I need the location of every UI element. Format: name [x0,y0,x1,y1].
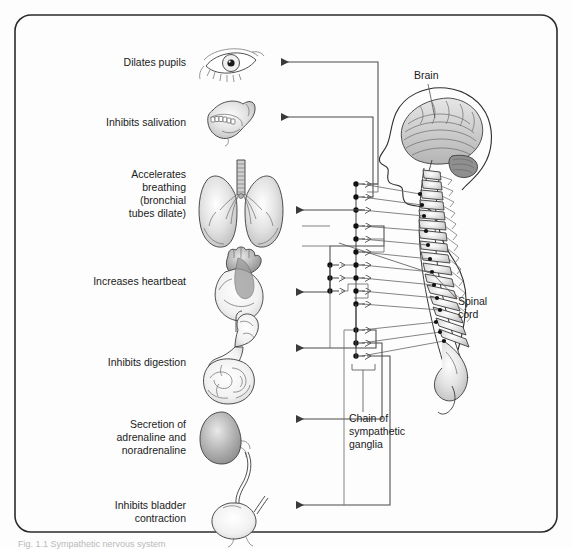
label-inhibits-bladder-line-1: contraction [135,512,187,524]
label-ganglia-line-2: ganglia [349,438,383,450]
label-inhibits-digestion-line-0: Inhibits digestion [108,356,186,368]
label-inhibits-bladder-line-0: Inhibits bladder [115,499,187,511]
label-secretion-adrenaline-line-2: noradrenaline [122,444,186,456]
label-dilates-pupils-line-0: Dilates pupils [124,56,186,68]
label-spinal-cord-line-1: cord [458,308,479,320]
figure-caption: Fig. 1.1 Sympathetic nervous system [18,539,166,549]
canvas-background [0,0,572,549]
label-inhibits-salivation: Inhibits salivation [106,116,186,128]
label-ganglia-line-1: sympathetic [349,425,405,437]
label-ganglia-line-0: Chain of [349,412,388,424]
label-accelerates-breathing-line-1: breathing [142,181,186,193]
label-brain-line-0: Brain [414,69,439,81]
label-accelerates-breathing-line-0: Accelerates [131,168,186,180]
figure-root: Dilates pupils Inhibits salivation Accel… [0,0,572,549]
label-inhibits-salivation-line-0: Inhibits salivation [106,116,186,128]
label-inhibits-digestion: Inhibits digestion [108,356,186,368]
label-dilates-pupils: Dilates pupils [124,56,186,68]
label-spinal-cord-line-0: Spinal [458,295,487,307]
label-increases-heartbeat-line-0: Increases heartbeat [93,275,186,287]
sympathetic-nervous-system-diagram: Dilates pupils Inhibits salivation Accel… [0,0,572,549]
label-increases-heartbeat: Increases heartbeat [93,275,186,287]
label-secretion-adrenaline-line-1: adrenaline and [117,431,187,443]
label-accelerates-breathing-line-2: (bronchial [140,194,186,206]
label-accelerates-breathing-line-3: tubes dilate) [129,207,186,219]
label-secretion-adrenaline-line-0: Secretion of [130,418,186,430]
